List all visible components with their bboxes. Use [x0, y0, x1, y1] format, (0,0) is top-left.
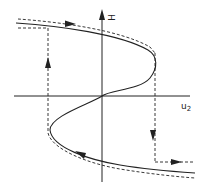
direction-arrows: [45, 21, 182, 166]
arrow-right-icon: [171, 159, 182, 165]
upper-dashed-branch: [18, 19, 155, 53]
vertical-axis-arrow-icon: [99, 9, 105, 20]
axes: [14, 14, 190, 182]
arrow-right-icon: [65, 21, 76, 28]
equilibrium-s-curve: [16, 23, 195, 173]
arrow-up-icon: [45, 57, 51, 68]
hysteresis-diagram: H u2: [0, 0, 205, 187]
vertical-axis-label: H: [106, 14, 116, 21]
hysteresis-path: [18, 19, 195, 178]
horizontal-axis-label: u2: [181, 101, 191, 113]
